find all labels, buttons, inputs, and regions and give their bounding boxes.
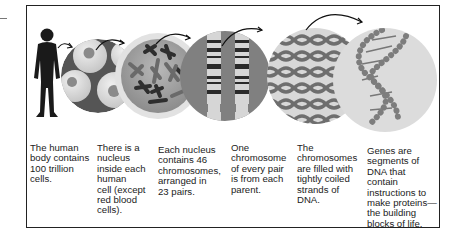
caption-cells: There is a nucleus inside each human cel… <box>97 143 146 216</box>
chromosome-pair-circle <box>180 28 270 128</box>
caption-nucleus: Each nucleus contains 46 chromosomes, ar… <box>158 145 221 197</box>
human-silhouette-icon <box>34 29 60 118</box>
caption-genes: Genes are segments of DNA that contain i… <box>367 146 437 229</box>
caption-dna-strands: The chromosomes are filled with tightly … <box>297 143 357 205</box>
dna-helix-circle <box>333 28 437 132</box>
caption-chromosome-pair: One chromosome of every pair is from eac… <box>231 143 286 195</box>
caption-body: The human body contains 100 trillion cel… <box>30 143 89 185</box>
